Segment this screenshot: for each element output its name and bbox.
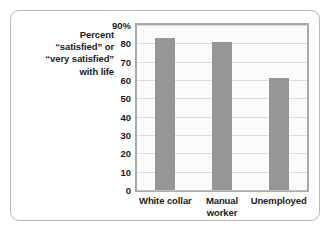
plot-inner — [137, 25, 307, 190]
x-tick-label-line: Manual — [190, 195, 254, 207]
y-tick-label-60: 60 — [99, 75, 131, 86]
y-tick-label-50: 50 — [99, 93, 131, 104]
y-tick-label-40: 40 — [99, 111, 131, 122]
y-axis-tick-labels: 90%80706050403020100 — [97, 23, 131, 192]
y-tick-label-10: 10 — [99, 166, 131, 177]
x-tick-label-line: White collar — [133, 195, 197, 207]
gridline-90 — [137, 25, 307, 26]
x-tick-label-1: Manualworker — [190, 195, 254, 218]
bar-1 — [212, 42, 232, 191]
gridline-0 — [137, 190, 307, 191]
y-tick-label-70: 70 — [99, 56, 131, 67]
chart-figure: Percent “satisfied” or “very satisfied” … — [10, 10, 320, 221]
x-tick-label-line: worker — [190, 207, 254, 219]
y-tick-label-0: 0 — [99, 185, 131, 196]
plot-area — [135, 23, 309, 192]
x-tick-label-line: Unemployed — [247, 195, 311, 207]
x-axis-tick-labels: White collarManualworkerUnemployed — [135, 195, 309, 223]
y-tick-label-90: 90% — [99, 20, 131, 31]
y-tick-label-80: 80 — [99, 38, 131, 49]
y-tick-label-20: 20 — [99, 148, 131, 159]
y-tick-label-30: 30 — [99, 130, 131, 141]
x-tick-label-0: White collar — [133, 195, 197, 207]
x-tick-label-2: Unemployed — [247, 195, 311, 207]
bar-2 — [269, 78, 289, 190]
bar-0 — [155, 38, 175, 190]
